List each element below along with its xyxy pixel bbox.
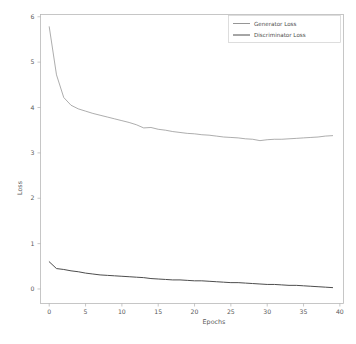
x-tick-label: 20 <box>191 308 199 315</box>
y-tick-label: 2 <box>31 194 35 201</box>
x-tick-label: 35 <box>300 308 308 315</box>
y-tick-label: 5 <box>31 58 35 65</box>
x-tick-label: 0 <box>47 308 51 315</box>
legend-background <box>229 16 341 43</box>
x-axis-label: Epochs <box>203 318 227 326</box>
y-tick-label: 6 <box>31 13 35 20</box>
loss-chart: 0123456 0510152025303540 Loss Epochs Gen… <box>0 0 356 344</box>
y-tick-label: 1 <box>31 240 35 247</box>
x-tick-label: 30 <box>263 308 271 315</box>
legend-label-1: Discriminator Loss <box>254 32 306 38</box>
y-tick-label: 0 <box>31 285 35 292</box>
y-axis-label: Loss <box>16 180 24 195</box>
x-tick-label: 10 <box>118 308 126 315</box>
x-tick-label: 15 <box>154 308 162 315</box>
y-tick-label: 4 <box>31 104 35 111</box>
figure-background <box>0 0 356 344</box>
x-tick-label: 40 <box>336 308 344 315</box>
legend-label-0: Generator Loss <box>254 21 297 27</box>
x-tick-label: 25 <box>227 308 235 315</box>
x-tick-label: 5 <box>84 308 88 315</box>
chart-figure: 0123456 0510152025303540 Loss Epochs Gen… <box>0 0 356 344</box>
chart-legend: Generator LossDiscriminator Loss <box>229 16 341 43</box>
y-tick-label: 3 <box>31 149 35 156</box>
